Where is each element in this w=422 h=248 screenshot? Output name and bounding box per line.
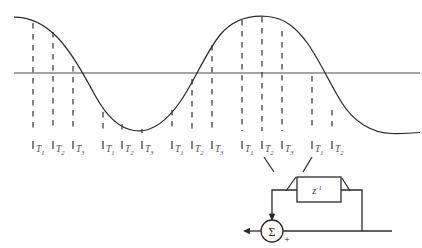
interval-label: T2 xyxy=(125,144,134,156)
block-diagram-group: z-1 Σ − + xyxy=(243,177,392,245)
interval-label: T1 xyxy=(106,144,115,156)
feedback-return-path xyxy=(341,190,362,231)
interval-label: T1 xyxy=(245,144,254,156)
leader-dash-right-lower xyxy=(342,178,350,191)
interval-label: T1 xyxy=(175,144,184,156)
interval-label: T1 xyxy=(315,144,324,156)
interval-label: T3 xyxy=(145,144,154,156)
feedback-top-path xyxy=(272,190,297,220)
sample-dash-group xyxy=(33,17,332,133)
interval-label: T3 xyxy=(285,144,294,156)
leader-dash-left-lower xyxy=(286,177,296,191)
interval-label: T3 xyxy=(215,144,224,156)
leader-dash-right-upper xyxy=(303,157,312,172)
sampled-sinusoid-figure: T1 T2 T3 T1 T2 T3 T1 T2 T3 T1 T2 T3 T1 T… xyxy=(0,0,422,248)
output-arrowhead xyxy=(243,228,250,234)
plus-sign-label: + xyxy=(284,234,290,245)
minus-sign-label: − xyxy=(269,208,275,219)
sinusoid-curve-group xyxy=(14,16,420,133)
interval-label: T2 xyxy=(265,144,274,156)
sinusoid-curve xyxy=(14,16,420,133)
interval-label: T2 xyxy=(56,144,65,156)
interval-label: T2 xyxy=(335,144,344,156)
interval-label: T2 xyxy=(195,144,204,156)
sigma-icon: Σ xyxy=(269,225,276,239)
leader-dash-left-upper xyxy=(264,157,274,172)
interval-label-group: T1 T2 T3 T1 T2 T3 T1 T2 T3 T1 T2 T3 T1 T… xyxy=(36,144,344,156)
interval-label: T1 xyxy=(36,144,45,156)
interval-label: T3 xyxy=(76,144,85,156)
